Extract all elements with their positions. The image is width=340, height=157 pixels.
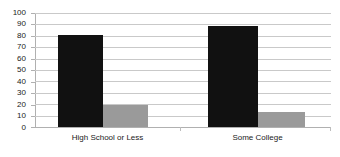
- x-category-label-0: High School or Less: [35, 133, 180, 142]
- y-tick-label-80: 80: [0, 32, 26, 40]
- y-tick-label-10: 10: [0, 112, 26, 120]
- y-tick-label-100: 100: [0, 9, 26, 17]
- y-tick-label-0: 0: [0, 124, 26, 132]
- x-category-label-1: Some College: [185, 133, 330, 142]
- category-separator-1: [180, 127, 181, 131]
- y-tick-label-70: 70: [0, 43, 26, 51]
- y-tick-label-30: 30: [0, 89, 26, 97]
- bar-group-0-series-1: [103, 105, 148, 127]
- category-separator-2: [330, 127, 331, 131]
- y-tick-label-90: 90: [0, 20, 26, 28]
- gridline-100: [35, 13, 331, 14]
- gridline-90: [35, 24, 331, 25]
- bar-group-1-series-0: [208, 26, 258, 127]
- plot-area: [35, 13, 331, 127]
- bar-group-1-series-1: [258, 112, 305, 127]
- y-tick-label-40: 40: [0, 78, 26, 86]
- bar-group-0-series-0: [58, 35, 103, 127]
- bar-chart: 100 90 80 70 60 50 40 30 20 10 0: [0, 0, 340, 157]
- gridline-0: [35, 127, 331, 128]
- y-tick-label-20: 20: [0, 101, 26, 109]
- y-tick-label-50: 50: [0, 66, 26, 74]
- y-tick-label-60: 60: [0, 55, 26, 63]
